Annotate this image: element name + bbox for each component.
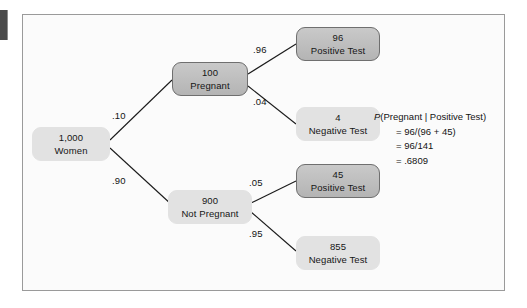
node-not-pregnant: 900 Not Pregnant — [168, 190, 252, 224]
formula-line-3: = 96/141 — [374, 139, 486, 154]
node-pregnant-positive-count: 96 — [333, 31, 344, 44]
node-not-pregnant-positive-label: Positive Test — [311, 181, 365, 194]
branch-label-not-pregnant-negative: .95 — [249, 228, 263, 239]
node-pregnant: 100 Pregnant — [172, 62, 248, 96]
node-pregnant-positive: 96 Positive Test — [296, 27, 380, 61]
node-root: 1,000 Women — [32, 127, 110, 161]
node-pregnant-negative: 4 Negative Test — [296, 107, 380, 141]
branch-label-pregnant-negative: .04 — [253, 96, 267, 107]
node-root-count: 1,000 — [59, 131, 83, 144]
figure-screenshot: 1,000 Women 100 Pregnant 900 Not Pregnan… — [0, 0, 527, 308]
branch-label-not-pregnant-positive: .05 — [249, 177, 263, 188]
node-not-pregnant-positive-count: 45 — [333, 168, 344, 181]
node-pregnant-count: 100 — [202, 66, 218, 79]
node-pregnant-negative-count: 4 — [335, 111, 340, 124]
page-edge-marker — [0, 10, 8, 40]
node-not-pregnant-negative-count: 855 — [330, 240, 346, 253]
node-not-pregnant-negative-label: Negative Test — [309, 253, 368, 266]
node-pregnant-negative-label: Negative Test — [309, 124, 368, 137]
branch-label-root-not-pregnant: .90 — [112, 175, 126, 186]
formula-line-1: P(Pregnant | Positive Test) — [374, 110, 486, 125]
formula-line-4: = .6809 — [374, 154, 486, 169]
node-pregnant-positive-label: Positive Test — [311, 44, 365, 57]
node-not-pregnant-count: 900 — [202, 194, 218, 207]
branch-label-root-pregnant: .10 — [112, 110, 126, 121]
node-root-label: Women — [54, 144, 87, 157]
node-not-pregnant-label: Not Pregnant — [181, 207, 238, 220]
conditional-probability-formula: P(Pregnant | Positive Test) = 96/(96 + 4… — [374, 110, 486, 168]
formula-line-2: = 96/(96 + 45) — [374, 125, 486, 140]
formula-line-1-rest: (Pregnant | Positive Test) — [380, 111, 486, 122]
node-not-pregnant-positive: 45 Positive Test — [296, 164, 380, 198]
branch-label-pregnant-positive: .96 — [253, 44, 267, 55]
node-not-pregnant-negative: 855 Negative Test — [296, 236, 380, 270]
node-pregnant-label: Pregnant — [190, 79, 229, 92]
